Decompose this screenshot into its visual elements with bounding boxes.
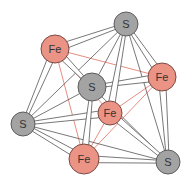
atom-node-fe3[interactable]: Fe — [98, 101, 122, 125]
atom-label: Fe — [104, 107, 117, 119]
atom-label: Fe — [49, 43, 62, 55]
atom-label: Fe — [78, 153, 91, 165]
fe-s-bond — [107, 24, 128, 114]
atom-node-fe4[interactable]: Fe — [69, 144, 99, 174]
cluster-diagram: SFeSFeFeSFeS — [0, 0, 192, 187]
atom-node-s3[interactable]: S — [11, 112, 35, 136]
atom-node-s2[interactable]: S — [78, 73, 106, 101]
atom-node-s4[interactable]: S — [156, 150, 180, 174]
atom-label: S — [88, 81, 95, 93]
atom-node-s1[interactable]: S — [114, 12, 138, 36]
atom-node-fe1[interactable]: Fe — [41, 35, 69, 63]
atom-label: S — [164, 156, 171, 168]
atom-label: S — [122, 18, 129, 30]
atom-label: Fe — [156, 71, 169, 83]
atom-label: S — [19, 118, 26, 130]
atom-node-fe2[interactable]: Fe — [148, 63, 176, 91]
